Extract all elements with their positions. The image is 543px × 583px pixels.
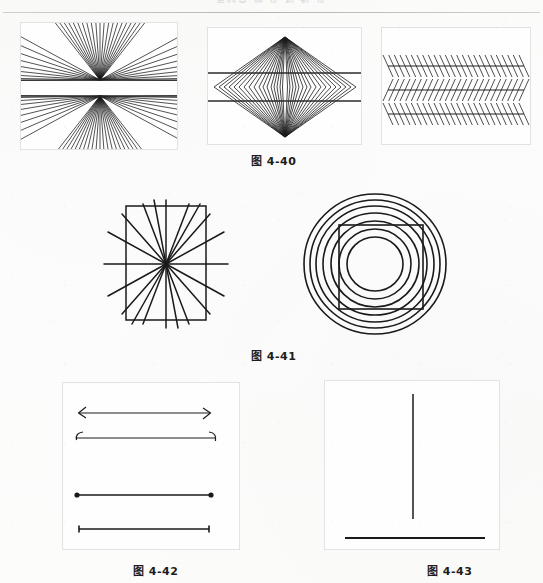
line-dot-ends [74,492,213,497]
nested-chevrons [214,37,356,137]
hering-parallel-lines [21,80,177,96]
line-arrow-fins [79,407,211,419]
panel-horizontal-vertical-illusion [324,380,500,550]
panel-hering-illusion [20,22,178,150]
caption-fig-4-43: 图 4-43 [427,562,472,578]
caption-fig-4-40: 图 4-40 [251,152,296,168]
horizontal-vertical-svg [325,381,499,549]
running-head-text: 第四章 感 觉 和 知 觉 [0,0,543,3]
radiating-rays [104,200,228,328]
scanned-page: 第四章 感 觉 和 知 觉 [0,0,543,583]
running-head: 第四章 感 觉 和 知 觉 [0,0,543,14]
hering-illusion-svg [21,23,177,149]
caption-fig-4-41: 图 4-41 [251,347,296,363]
caption-fig-4-42: 图 4-42 [133,562,178,578]
fan-rays-upper [21,23,177,81]
header-divider-rule [3,12,540,13]
panel-muller-lyer-illusion [62,382,240,550]
wundt-diamond-svg [208,28,361,144]
panel-wundt-diamond-illusion [207,27,362,145]
concentric-circles [304,194,446,334]
line-tick-ends [79,526,209,533]
fan-rays-lower [21,95,177,149]
muller-lyer-svg [63,383,239,549]
zollner-illusion-svg [382,28,530,144]
panel-zollner-illusion [381,27,531,145]
radiating-square-svg [102,196,230,332]
orbison-illusion-svg [302,192,448,336]
panel-orbison-illusion [302,192,448,336]
line-curved-fins [76,432,215,441]
panel-hering-square-illusion [102,196,230,332]
